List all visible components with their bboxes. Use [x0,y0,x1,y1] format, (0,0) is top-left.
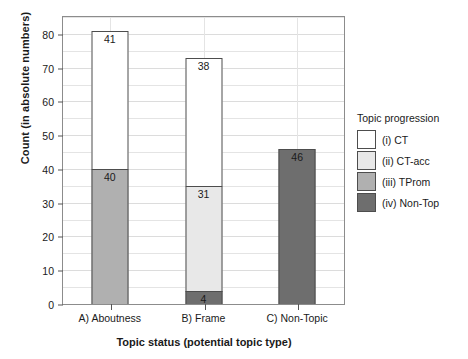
x-axis-title: Topic status (potential topic type) [62,336,346,348]
y-tick-mark [58,68,63,69]
y-tick-mark [58,34,63,35]
x-tick-mark [205,304,206,310]
legend-label: (iii) TProm [382,176,430,188]
bar-segment[interactable]: 41 [91,31,128,170]
y-axis-title: Count (in absolute numbers) [19,0,31,198]
bar-value-label: 31 [186,189,221,200]
stacked-bar-chart: Count (in absolute numbers) 41403831446 … [0,0,468,359]
bar-value-label: 38 [186,61,221,72]
x-tick-label-1: A) Aboutness [79,312,141,324]
legend-item-4[interactable]: (iv) Non-Top [357,192,439,213]
y-tick-mark [58,305,63,306]
legend: Topic progression (i) CT(ii) CT-acc(iii)… [357,112,439,213]
plot-area: 41403831446 01020304050607080 [62,16,345,305]
y-tick-mark [58,136,63,137]
bar-value-label: 46 [280,152,315,163]
legend-label: (iv) Non-Top [382,197,439,209]
legend-swatch [357,172,376,191]
legend-swatch [357,151,376,170]
y-tick-mark [58,271,63,272]
legend-swatch [357,193,376,212]
bar-value-label: 40 [92,172,127,183]
bar-3[interactable]: 46 [279,149,316,304]
bar-segment[interactable]: 40 [91,169,128,304]
x-tick-label-3: C) Non-Topic [267,312,328,324]
legend-item-2[interactable]: (ii) CT-acc [357,150,439,171]
legend-item-3[interactable]: (iii) TProm [357,171,439,192]
plot-inner: 41403831446 [63,17,344,304]
x-tick-label-2: B) Frame [182,312,226,324]
bar-value-label: 4 [186,294,221,305]
legend-item-1[interactable]: (i) CT [357,129,439,150]
legend-title: Topic progression [357,112,439,124]
x-tick-mark [111,304,112,310]
bar-value-label: 41 [92,34,127,45]
y-tick-mark [58,237,63,238]
bar-segment[interactable]: 31 [185,186,222,292]
legend-label: (ii) CT-acc [382,155,430,167]
bar-segment[interactable]: 46 [279,149,316,304]
bar-segment[interactable]: 38 [185,58,222,187]
legend-swatch [357,130,376,149]
y-tick-mark [58,169,63,170]
bar-1[interactable]: 4140 [91,31,128,304]
x-tick-mark [298,304,299,310]
y-tick-mark [58,203,63,204]
y-tick-mark [58,102,63,103]
legend-label: (i) CT [382,134,408,146]
bar-2[interactable]: 38314 [185,58,222,304]
bar-segment[interactable]: 4 [185,291,222,305]
legend-items: (i) CT(ii) CT-acc(iii) TProm(iv) Non-Top [357,129,439,213]
